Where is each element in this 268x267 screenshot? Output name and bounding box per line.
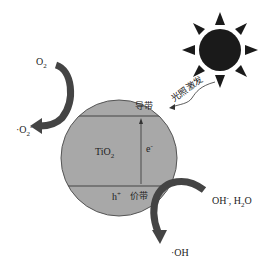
electron-label: e- [146,143,153,154]
o2-label: O2 [36,57,47,70]
reactants-label: OH-, H2O [212,195,252,209]
conduction-band-label: 导带 [135,102,153,111]
valence-band-label: 价带 [130,192,148,201]
hole-label: h+ [112,191,121,202]
sun-icon [182,12,258,88]
superoxide-label: ·O2- [16,124,32,138]
photocatalysis-diagram [0,0,268,267]
oh-oxidation-arrow [154,181,204,232]
o2-reduction-arrow [40,65,71,126]
hydroxyl-label: ·OH [171,248,189,258]
tio2-label: TiO2 [95,147,114,160]
